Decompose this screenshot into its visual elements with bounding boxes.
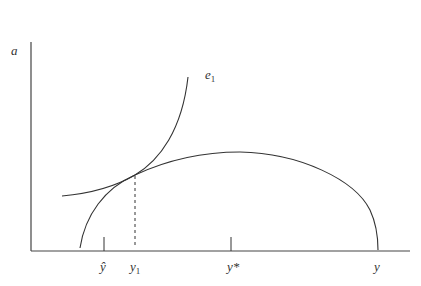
tick-label-y1: y1 — [128, 259, 140, 276]
y-axis-label: a — [11, 43, 18, 58]
curve-label-e1: e1 — [205, 67, 215, 84]
indifference-curve-e1 — [62, 77, 188, 196]
tick-label-y-star: y* — [225, 259, 240, 274]
diagram-canvas: a e1 ŷ y1 y* y — [0, 0, 421, 286]
x-axis-label: y — [372, 259, 380, 274]
tick-label-y-hat: ŷ — [98, 259, 106, 274]
arch-curve — [80, 152, 378, 250]
